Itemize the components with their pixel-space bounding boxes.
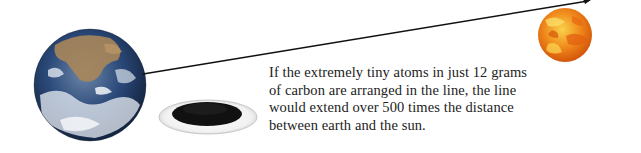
caption-line: between earth and the sun. — [269, 117, 589, 135]
carbon-dish-icon — [159, 100, 257, 134]
sun-icon — [538, 8, 592, 62]
caption-line: If the extremely tiny atoms in just 12 g… — [269, 64, 589, 82]
diagram: If the extremely tiny atoms in just 12 g… — [0, 0, 641, 153]
caption-text: If the extremely tiny atoms in just 12 g… — [269, 64, 589, 134]
caption-line: of carbon are arranged in the line, the … — [269, 82, 589, 100]
arrow-line-icon — [143, 0, 591, 74]
caption-line: would extend over 500 times the distance — [269, 99, 589, 117]
earth-globe-icon — [34, 29, 146, 141]
